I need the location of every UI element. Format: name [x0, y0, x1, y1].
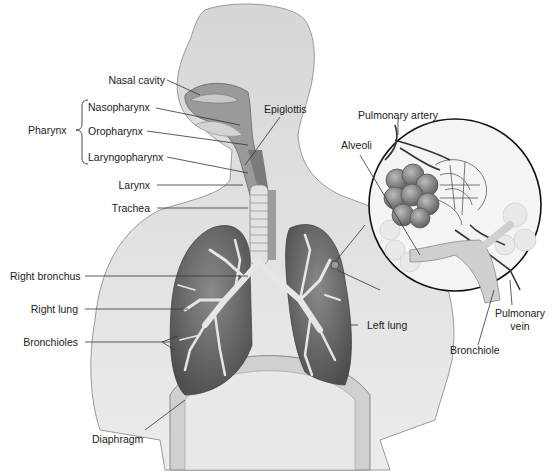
label-trachea: Trachea [95, 203, 150, 214]
label-pulmonary-vein-line2: vein [490, 321, 550, 332]
label-pulmonary-artery: Pulmonary artery [358, 110, 438, 121]
trachea-illustration [250, 185, 276, 265]
label-oropharynx: Oropharynx [88, 126, 143, 137]
label-left-lung: Left lung [367, 320, 407, 331]
label-alveoli: Alveoli [341, 140, 372, 151]
respiratory-diagram: Nasal cavity Nasopharynx Pharynx Orophar… [0, 0, 560, 476]
label-nasal-cavity: Nasal cavity [95, 75, 165, 86]
label-pulmonary-vein-line1: Pulmonary [490, 308, 550, 319]
label-laryngopharynx: Laryngopharynx [88, 152, 163, 163]
label-nasopharynx: Nasopharynx [88, 102, 150, 113]
label-pulmonary-vein: Pulmonary vein [490, 308, 550, 331]
label-epiglottis: Epiglottis [264, 104, 307, 115]
label-larynx: Larynx [95, 180, 150, 191]
pharynx-brace [76, 100, 88, 164]
label-diaphragm: Diaphragm [92, 434, 143, 445]
label-right-lung: Right lung [10, 304, 78, 315]
label-bronchioles: Bronchioles [10, 337, 78, 348]
label-pharynx: Pharynx [28, 125, 67, 136]
label-bronchiole: Bronchiole [450, 345, 500, 356]
anatomy-illustration [0, 0, 560, 476]
label-right-bronchus: Right bronchus [10, 271, 81, 282]
